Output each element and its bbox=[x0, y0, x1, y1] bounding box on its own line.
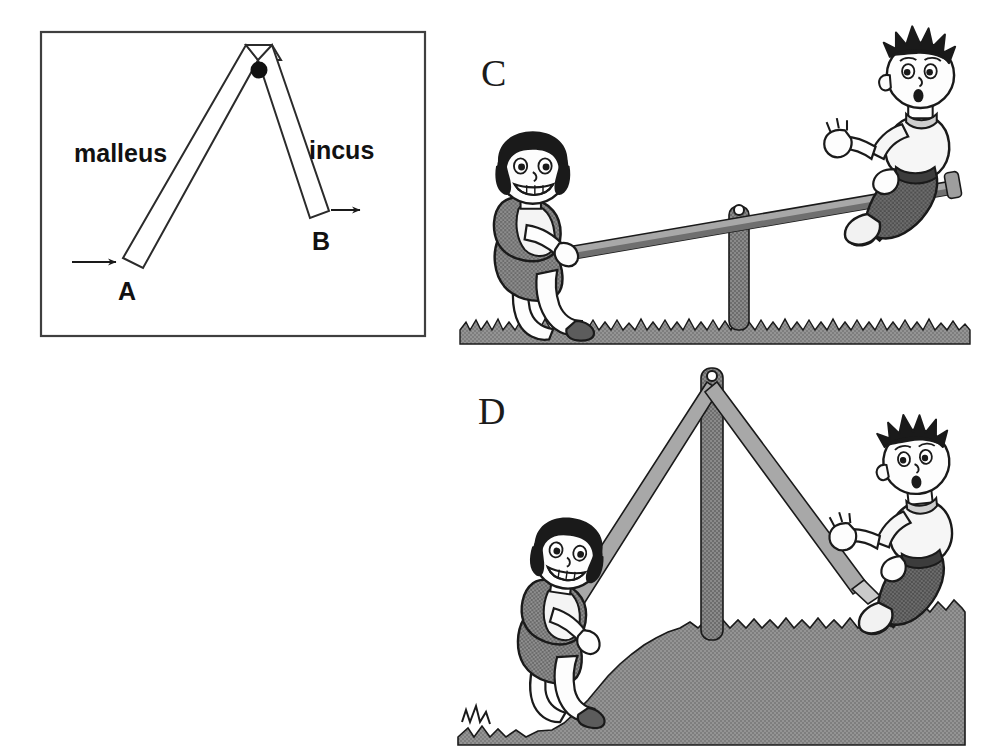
panel-seesaw-hill: D bbox=[458, 368, 968, 745]
boy-child-d bbox=[818, 411, 968, 638]
panel-ossicle-diagram: malleus incus A B bbox=[41, 32, 425, 336]
panel-seesaw-level: C bbox=[460, 26, 970, 344]
label-point-b: B bbox=[312, 227, 330, 255]
panel-letter-d: D bbox=[478, 390, 505, 432]
seesaw-plank-right-d bbox=[705, 382, 880, 604]
label-incus: incus bbox=[309, 136, 374, 164]
figure-canvas: malleus incus A B C bbox=[0, 0, 1007, 753]
girl-child-c bbox=[494, 131, 594, 340]
label-point-a: A bbox=[118, 277, 136, 305]
fulcrum-dot-icon bbox=[251, 62, 268, 79]
panel-letter-c: C bbox=[481, 52, 506, 94]
pivot-bolt-icon-c bbox=[734, 205, 744, 215]
label-malleus: malleus bbox=[74, 139, 167, 167]
pivot-bolt-icon-d bbox=[707, 371, 717, 381]
